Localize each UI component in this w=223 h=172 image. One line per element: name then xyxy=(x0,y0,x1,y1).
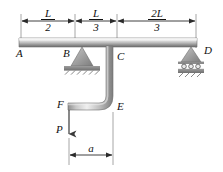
support-B-triangle xyxy=(71,47,93,66)
support-D-rollers xyxy=(182,64,201,69)
dimension-L-over-3-numerator: L xyxy=(92,7,99,19)
dimension-a-label: a xyxy=(88,142,94,154)
main-beam xyxy=(19,38,197,47)
label-point-F: F xyxy=(56,98,64,110)
dimension-2L-over-3: 2L 3 xyxy=(118,7,195,33)
support-B-hatching xyxy=(65,71,99,75)
support-D-hatching xyxy=(179,73,201,77)
dimension-L-over-3: L 3 xyxy=(76,7,116,33)
label-point-B: B xyxy=(63,47,70,59)
label-point-E: E xyxy=(116,100,124,112)
label-load-P: P xyxy=(55,123,63,135)
dimension-L-over-2-denominator: 2 xyxy=(45,21,51,33)
load-P: P xyxy=(55,110,69,135)
dimension-2L-over-3-numerator: 2L xyxy=(151,7,163,19)
support-D-roller xyxy=(178,47,204,77)
beam-diagram-figure: L 2 L 3 2L 3 xyxy=(0,0,223,172)
dimension-2L-over-3-denominator: 3 xyxy=(153,21,160,33)
dimension-L-over-2-numerator: L xyxy=(44,7,51,19)
dimension-a: a xyxy=(69,112,113,165)
support-D-triangle xyxy=(181,47,201,62)
label-point-C: C xyxy=(117,50,125,62)
support-D-ground xyxy=(178,69,204,73)
support-D-upper-plate xyxy=(178,62,204,64)
beam-diagram-canvas: L 2 L 3 2L 3 xyxy=(0,0,223,172)
dimension-L-over-3-denominator: 3 xyxy=(92,21,99,33)
column-member-CE xyxy=(68,46,113,110)
label-point-A: A xyxy=(15,47,23,59)
support-B-ground xyxy=(64,66,100,71)
label-point-D: D xyxy=(203,44,212,56)
dimension-L-over-2: L 2 xyxy=(22,7,74,33)
